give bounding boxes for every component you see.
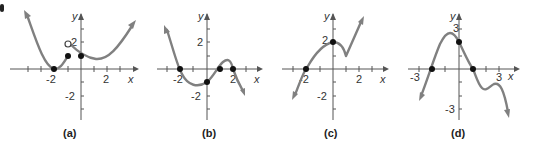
filled-point (78, 53, 84, 59)
curve-arrow-icon (24, 10, 31, 19)
curve-arrow-icon (419, 92, 425, 101)
x-axis-label: x (507, 70, 514, 82)
filled-point (217, 66, 223, 72)
y-tick-label: -2 (191, 90, 201, 102)
curve-arrow-icon (164, 25, 170, 34)
y-tick-label: 2 (197, 36, 203, 48)
y-tick-label: 3 (453, 22, 459, 34)
graph-d: y x -3 3 3 -3 (d) (390, 0, 536, 149)
y-tick-label: -2 (65, 90, 75, 102)
x-axis-arrow-icon (383, 66, 389, 72)
y-axis-arrow-icon (330, 13, 336, 20)
x-axis-label: x (253, 73, 260, 85)
x-tick-label: 2 (103, 73, 109, 85)
filled-point (330, 39, 336, 45)
y-tick-label: -3 (445, 103, 455, 115)
x-tick-label: 3 (496, 71, 502, 83)
y-axis-arrow-icon (204, 13, 210, 20)
y-axis-label: y (197, 10, 205, 22)
graph-b: y x -2 2 2 -2 (b) (130, 0, 270, 149)
filled-point (204, 79, 210, 85)
y-axis-label: y (71, 10, 79, 22)
y-axis-arrow-icon (78, 13, 84, 20)
filled-point (177, 66, 183, 72)
x-tick-label: -3 (410, 71, 420, 83)
x-tick-label: -2 (46, 73, 56, 85)
graph-c: y x -2 2 2 -2 (c) (260, 0, 400, 149)
filled-point (456, 39, 462, 45)
caption-c: (c) (324, 127, 337, 139)
open-point (65, 41, 71, 47)
x-axis-arrow-icon (514, 66, 520, 72)
x-axis-label: x (379, 73, 386, 85)
filled-point (230, 66, 236, 72)
y-axis-label: y (449, 10, 457, 22)
filled-point (303, 66, 309, 72)
curve-arrow-icon (504, 109, 510, 118)
filled-point (470, 66, 476, 72)
curve-left-piece (27, 15, 68, 69)
y-axis-label: y (323, 10, 331, 22)
caption-b: (b) (202, 127, 216, 139)
graph-a: y x -2 2 2 -2 (a) (0, 0, 140, 149)
y-tick-label: -2 (317, 90, 327, 102)
filled-point (65, 53, 71, 59)
caption-a: (a) (63, 127, 76, 139)
filled-point (51, 66, 57, 72)
x-tick-label: 2 (356, 73, 362, 85)
filled-point (429, 66, 435, 72)
caption-d: (d) (451, 127, 465, 139)
y-axis-arrow-icon (456, 13, 462, 20)
curve-arrow-icon (358, 16, 364, 25)
curve (421, 33, 508, 112)
